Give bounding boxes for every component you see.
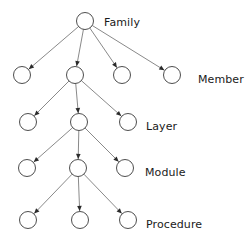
tree-node-procedure-1[interactable] — [20, 212, 37, 229]
edge-arrowhead-icon — [159, 66, 165, 71]
tree-node-layer-3[interactable] — [120, 114, 137, 131]
tree-edge — [77, 29, 84, 66]
edge-arrowhead-icon — [76, 154, 81, 159]
tree-node-procedure-2[interactable] — [72, 212, 89, 229]
edge-arrowhead-icon — [75, 61, 80, 67]
tree-node-member-2[interactable] — [67, 67, 84, 84]
tree-edge — [34, 128, 73, 162]
tree-edge — [90, 28, 117, 68]
tree-node-layer-2[interactable] — [71, 114, 88, 131]
tree-node-family-1[interactable] — [77, 13, 94, 30]
edges-group — [29, 25, 165, 213]
edge-arrowhead-icon — [77, 206, 82, 211]
tree-edge — [84, 174, 122, 213]
tree-node-member-3[interactable] — [114, 67, 131, 84]
level-label-member: Member — [198, 74, 244, 85]
tree-diagram: Family Member Layer Module Procedure — [0, 0, 252, 240]
tree-edge — [34, 81, 69, 116]
edge-arrowhead-icon — [112, 62, 117, 68]
tree-edge — [81, 81, 121, 116]
tree-node-member-1[interactable] — [14, 67, 31, 84]
level-label-procedure: Procedure — [146, 219, 202, 230]
edge-arrowhead-icon — [76, 108, 81, 113]
tree-node-procedure-3[interactable] — [120, 212, 137, 229]
tree-graphics — [0, 0, 252, 240]
tree-node-module-2[interactable] — [70, 160, 87, 177]
tree-edge — [85, 128, 119, 162]
tree-edge — [34, 174, 72, 213]
tree-node-member-4[interactable] — [164, 67, 181, 84]
tree-edge — [29, 27, 79, 70]
level-label-module: Module — [145, 167, 186, 178]
tree-node-module-3[interactable] — [117, 160, 134, 177]
level-label-layer: Layer — [146, 121, 177, 132]
level-label-family: Family — [104, 17, 140, 28]
tree-node-layer-1[interactable] — [20, 114, 37, 131]
tree-node-module-1[interactable] — [19, 160, 36, 177]
